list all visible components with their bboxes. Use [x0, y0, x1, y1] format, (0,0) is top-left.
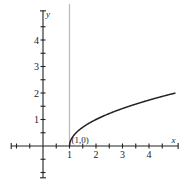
y-tick-label: 3 [34, 61, 39, 72]
y-axis-label: y [45, 9, 50, 19]
x-tick-label: 2 [94, 149, 99, 160]
y-tick-label: 1 [34, 114, 39, 125]
y-tick-label: 2 [34, 88, 39, 99]
x-tick-label: 1 [67, 149, 72, 160]
ticks [17, 27, 163, 173]
x-axis-label: x [171, 135, 176, 145]
chart: x y (1,0) 12341234 [0, 0, 188, 181]
y-tick-label: 4 [34, 35, 39, 46]
x-tick-label: 4 [147, 149, 152, 160]
point-annotation: (1,0) [72, 135, 89, 145]
labels: x y (1,0) 12341234 [34, 9, 176, 160]
x-tick-label: 3 [120, 149, 125, 160]
